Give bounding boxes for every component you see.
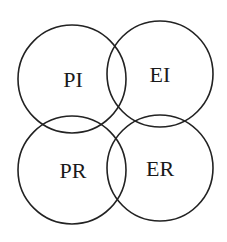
- label-pr: PR: [60, 158, 87, 183]
- label-pi: PI: [63, 67, 83, 92]
- venn-svg: PI EI PR ER: [0, 0, 227, 242]
- label-er: ER: [146, 156, 174, 181]
- label-ei: EI: [150, 62, 171, 87]
- venn-diagram: PI EI PR ER: [0, 0, 227, 242]
